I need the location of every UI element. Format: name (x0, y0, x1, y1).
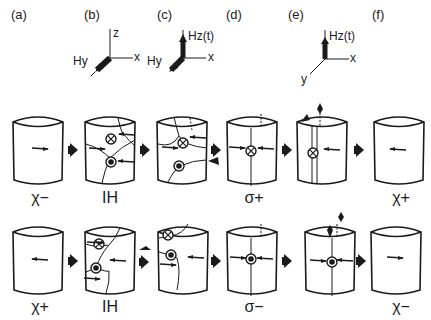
panel-label-b: (b) (84, 8, 100, 21)
cylinder-a2 (13, 227, 63, 294)
cylinder-e1 (297, 103, 347, 184)
cylinder-f1 (374, 117, 424, 184)
state-label-row1-f: χ+ (392, 190, 410, 206)
field-label-hz-c: Hz(t) (188, 30, 214, 42)
cylinder-a1 (13, 117, 63, 184)
field-label-hy-c: Hy (147, 55, 162, 67)
cylinder-f2 (371, 227, 421, 294)
axis-label-z: z (113, 27, 119, 39)
state-label-row2-b: IH (102, 299, 118, 315)
field-label-hz-e: Hz(t) (329, 30, 355, 42)
panel-label-a: (a) (11, 8, 27, 21)
panel-label-f: (f) (372, 8, 384, 21)
cylinder-b2 (84, 227, 135, 294)
cylinder-c1 (157, 117, 207, 184)
cylinder-d1 (227, 114, 277, 186)
state-label-row1-b: IH (102, 190, 118, 206)
panel-label-e: (e) (288, 8, 304, 21)
cylinder-d2 (227, 224, 277, 296)
row2-cylinders (13, 212, 421, 296)
state-label-row2-a: χ+ (31, 299, 49, 315)
axis-label-x-e: x (350, 52, 356, 64)
state-label-row2-d: σ− (244, 299, 263, 315)
state-label-row1-d: σ+ (244, 190, 263, 206)
axis-label-x-b: x (134, 51, 140, 63)
field-label-hy-b: Hy (73, 55, 88, 67)
state-label-row2-f: χ− (392, 299, 410, 315)
axis-label-y-e: y (301, 73, 307, 85)
state-label-row1-a: χ− (31, 190, 49, 206)
cylinder-e2 (305, 212, 355, 296)
axis-label-x-c: x (208, 51, 214, 63)
panel-label-c: (c) (157, 8, 172, 21)
cylinder-c2 (158, 224, 208, 294)
figure-diagram (0, 0, 431, 320)
axes-b (91, 29, 133, 76)
panel-label-d: (d) (226, 8, 242, 21)
cylinder-b1 (85, 117, 135, 184)
row1-cylinders (13, 103, 424, 186)
